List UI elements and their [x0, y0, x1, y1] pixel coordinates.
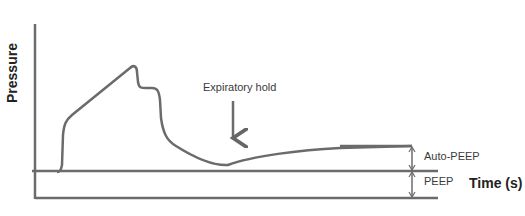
auto-peep-label: Auto-PEEP	[424, 150, 480, 162]
x-axis-title: Time (s)	[469, 175, 522, 191]
expiratory-hold-label: Expiratory hold	[203, 81, 276, 93]
y-axis-title: Pressure	[4, 43, 20, 103]
peep-label: PEEP	[424, 175, 453, 187]
pressure-time-diagram: Expiratory hold Auto-PEEP PEEP Time (s) …	[0, 0, 525, 216]
